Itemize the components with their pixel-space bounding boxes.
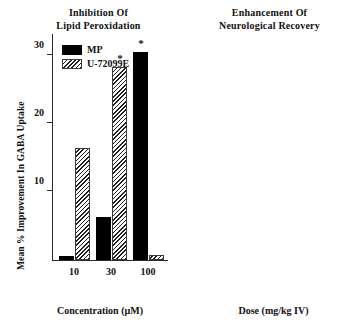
bar-left-u7-30 — [112, 67, 127, 260]
x-tick-label-left-100: 100 — [141, 267, 156, 277]
x-axis-label-left: Concentration (µM) — [30, 305, 170, 316]
bar-left-mp-30 — [96, 217, 111, 260]
bar-left-u7-100 — [149, 255, 164, 260]
chart-title-right-line2: Neurological Recovery — [193, 19, 346, 32]
x-axis-label-right: Dose (mg/kg IV) — [201, 305, 346, 316]
bar-left-u7-10 — [75, 148, 90, 260]
chart-title-left-line1: Inhibition Of — [69, 7, 128, 18]
bar-left-mp-10 — [59, 256, 74, 260]
chart-legend: MP U-72099E — [62, 44, 129, 72]
y-tick-left-10 — [47, 190, 52, 191]
y-tick-label-left-30: 30 — [34, 40, 44, 50]
chart-title-left: Inhibition Of Lipid Peroxidation — [0, 6, 173, 32]
legend-item-u72099e: U-72099E — [62, 58, 129, 70]
chart-panel-neurological-recovery: Enhancement Of Neurological Recovery Mea… — [173, 0, 346, 322]
chart-title-left-line2: Lipid Peroxidation — [24, 19, 173, 32]
x-tick-label-left-10: 10 — [69, 267, 79, 277]
y-tick-left-30 — [47, 54, 52, 55]
y-axis-line-left — [52, 34, 53, 261]
chart-panel-lipid-peroxidation: Inhibition Of Lipid Peroxidation Mean % … — [0, 0, 173, 322]
legend-item-mp: MP — [62, 44, 129, 56]
y-axis-label-left: Mean % Improvement In GABA Uptake — [16, 101, 26, 270]
significance-star-left-mp-100: * — [138, 38, 144, 49]
chart-title-right: Enhancement Of Neurological Recovery — [173, 6, 346, 32]
legend-label-mp: MP — [87, 45, 103, 55]
y-tick-label-left-10: 10 — [34, 176, 44, 186]
x-axis-line-left — [52, 260, 168, 261]
y-tick-left-20 — [47, 122, 52, 123]
figure-root: Inhibition Of Lipid Peroxidation Mean % … — [0, 0, 346, 322]
bar-left-mp-100 — [133, 52, 148, 260]
chart-title-right-line1: Enhancement Of — [232, 7, 307, 18]
legend-label-u72099e: U-72099E — [87, 59, 129, 69]
legend-swatch-u72099e-icon — [62, 59, 82, 69]
y-tick-label-left-20: 20 — [34, 108, 44, 118]
x-tick-label-left-30: 30 — [106, 267, 116, 277]
legend-swatch-mp-icon — [62, 45, 82, 55]
